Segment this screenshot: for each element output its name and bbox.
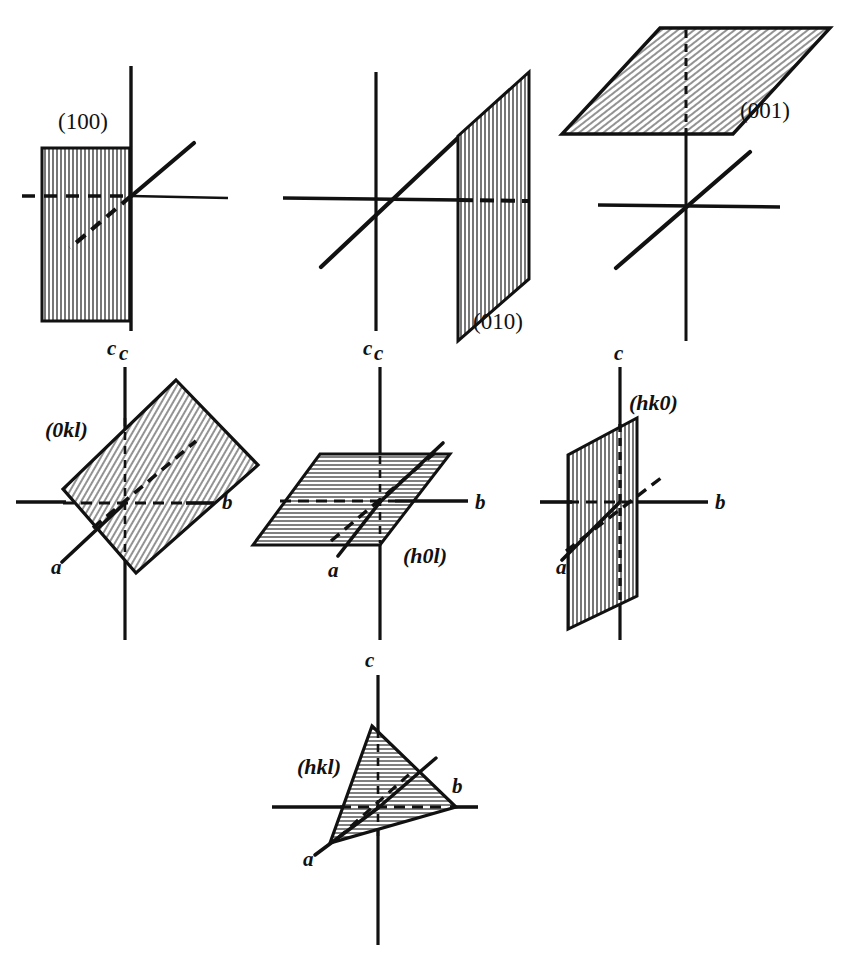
panel-001: (001) [562, 28, 830, 341]
panel-100-c-axis-label: c [107, 336, 117, 360]
panel-h0l-index-label: (h0l) [403, 543, 447, 568]
panel-h0l-c-axis-label: c [374, 341, 384, 365]
panel-hkl-b-axis-label: b [452, 774, 463, 798]
panel-h0l-b-axis-label: b [475, 490, 486, 514]
panel-010-plane-fill [458, 72, 529, 341]
panel-hk0-index-label: (hk0) [629, 390, 678, 415]
panel-hk0-c-axis-label: c [614, 341, 624, 365]
panel-010-b-axis [283, 198, 459, 200]
panel-010-c-axis-label: c [363, 336, 373, 360]
panel-0kl: (0kl) a b c [16, 341, 258, 640]
panel-0kl-c-axis-label: c [119, 341, 129, 365]
panel-010-index-label: (010) [473, 309, 523, 334]
panel-hk0-a-axis-label: a [556, 555, 567, 579]
panel-100-b-axis [131, 196, 228, 198]
panel-0kl-index-label: (0kl) [45, 417, 88, 442]
panel-100-plane-fill [42, 148, 130, 321]
panel-0kl-plane-fill [63, 380, 258, 573]
panel-010: (010) c [283, 72, 529, 360]
panel-h0l-a-axis-label: a [328, 558, 339, 582]
panel-0kl-a-axis-label: a [51, 555, 62, 579]
panel-hk0-b-axis-label: b [715, 490, 726, 514]
panel-h0l: (h0l) a b c [253, 341, 486, 640]
panel-hkl-index-label: (hkl) [297, 754, 341, 779]
panel-001-index-label: (001) [740, 98, 790, 123]
panel-hkl-a-axis-label: a [303, 847, 314, 871]
panel-100: (100) c [22, 66, 228, 360]
panel-0kl-b-axis-label: b [222, 490, 233, 514]
panel-hkl-c-axis-label: c [365, 648, 375, 672]
panel-hk0: (hk0) a b c [540, 341, 726, 640]
panel-hkl: (hkl) a b c [272, 648, 478, 945]
panel-100-index-label: (100) [58, 109, 108, 134]
panel-001-a-axis [616, 152, 750, 268]
miller-index-plane-figure: (100) c (010) c (001) [0, 0, 842, 963]
